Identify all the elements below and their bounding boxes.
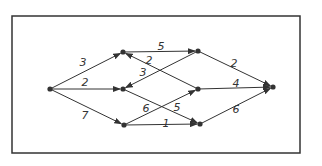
edge-weight-label: 3	[80, 56, 87, 69]
node-E	[195, 86, 200, 91]
edge-weight-label: 5	[174, 101, 181, 114]
edge-C-F	[124, 124, 197, 125]
edge-E-A	[126, 53, 198, 89]
node-A	[120, 49, 125, 54]
edge-D-B	[126, 51, 198, 88]
node-B	[120, 86, 125, 91]
diagram-frame	[12, 16, 300, 153]
network-diagram: 327523561246	[0, 0, 322, 166]
edge-weight-label: 4	[233, 77, 240, 90]
node-D	[195, 48, 200, 53]
edge-weight-label: 5	[158, 40, 165, 53]
edge-weight-label: 2	[231, 57, 238, 70]
edge-weight-label: 6	[143, 102, 150, 115]
node-T	[270, 84, 275, 89]
edge-weight-label: 6	[233, 103, 240, 116]
node-C	[121, 122, 126, 127]
node-S	[47, 86, 52, 91]
edge-weight-label: 2	[82, 76, 89, 89]
node-F	[197, 121, 202, 126]
edge-C-E	[124, 90, 195, 125]
edge-weight-label: 7	[82, 109, 89, 122]
edge-weight-label: 1	[163, 117, 170, 130]
edge-weight-label: 2	[146, 54, 153, 67]
edge-B-F	[123, 89, 197, 123]
edge-weight-label: 3	[140, 66, 147, 79]
